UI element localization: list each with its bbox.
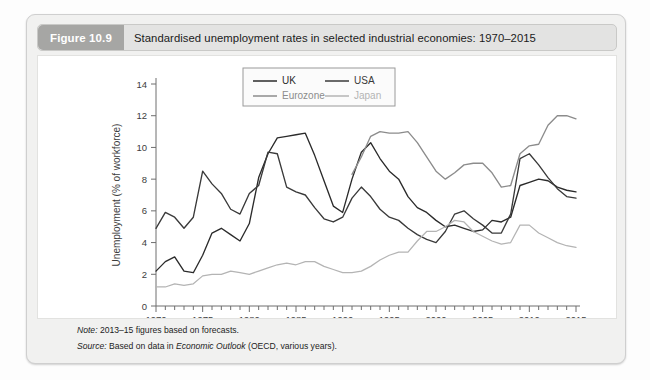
x-tick-label: 2005	[472, 314, 493, 318]
source-text-2: (OECD, various years).	[246, 341, 337, 351]
x-tick-label: 1985	[285, 314, 306, 318]
source-text-1: Based on data in	[109, 341, 176, 351]
source-italic-title: Economic Outlook	[176, 341, 246, 351]
figure-page: Figure 10.9 Standardised unemployment ra…	[0, 0, 650, 380]
source-prefix: Source:	[77, 341, 107, 351]
y-axis-title: Unemployment (% of workforce)	[111, 124, 122, 267]
legend-label-usa: USA	[354, 75, 375, 86]
unemployment-line-chart: 0246810121419701975198019851990199520002…	[38, 56, 616, 318]
legend-label-uk: UK	[282, 75, 296, 86]
series-line-eurozone	[352, 116, 576, 187]
chart-panel: 0246810121419701975198019851990199520002…	[37, 55, 617, 319]
figure-note: Note: 2013–15 figures based on forecasts…	[77, 325, 239, 335]
figure-card: Figure 10.9 Standardised unemployment ra…	[26, 14, 626, 364]
legend-label-eurozone: Eurozone	[282, 90, 325, 101]
y-tick-label: 12	[136, 110, 147, 121]
y-tick-label: 14	[136, 79, 147, 90]
x-tick-label: 2000	[425, 314, 446, 318]
y-tick-label: 4	[142, 237, 147, 248]
x-tick-label: 2010	[519, 314, 540, 318]
note-prefix: Note:	[77, 325, 98, 335]
legend-label-japan: Japan	[354, 90, 381, 101]
note-text: 2013–15 figures based on forecasts.	[100, 325, 239, 335]
x-tick-label: 1990	[332, 314, 353, 318]
y-tick-label: 10	[136, 142, 147, 153]
y-tick-label: 0	[142, 301, 147, 312]
figure-number-badge: Figure 10.9	[38, 25, 124, 50]
x-tick-label: 1995	[379, 314, 400, 318]
figure-title: Standardised unemployment rates in selec…	[134, 25, 536, 50]
figure-source: Source: Based on data in Economic Outloo…	[77, 341, 337, 351]
figure-header-bar: Figure 10.9 Standardised unemployment ra…	[37, 24, 617, 51]
x-tick-label: 2015	[565, 314, 586, 318]
x-tick-label: 1975	[192, 314, 213, 318]
y-tick-label: 6	[142, 205, 147, 216]
x-tick-label: 1970	[145, 314, 166, 318]
x-tick-label: 1980	[239, 314, 260, 318]
y-tick-label: 8	[142, 174, 147, 185]
y-tick-label: 2	[142, 269, 147, 280]
series-line-japan	[156, 220, 576, 287]
